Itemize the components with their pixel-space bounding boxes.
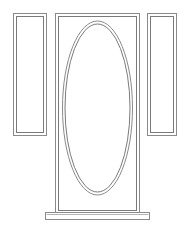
left-sidelite-panel xyxy=(13,13,47,136)
left-sidelite-fill xyxy=(13,13,47,136)
right-sidelite-panel xyxy=(147,13,177,136)
threshold-fill xyxy=(45,212,150,220)
right-sidelite-fill xyxy=(147,13,177,136)
oval-glass-lite xyxy=(63,21,133,195)
door-elevation-drawing: Entry Door Elevation xyxy=(0,0,189,231)
door-elevation-canvas: Entry Door Elevation xyxy=(0,0,189,231)
threshold-sill xyxy=(45,212,150,220)
